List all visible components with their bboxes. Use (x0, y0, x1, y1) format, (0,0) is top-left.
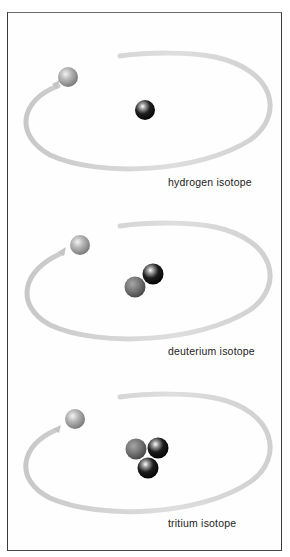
nucleus-particle (138, 458, 159, 479)
panel-hydrogen: hydrogen isotope (0, 0, 290, 190)
electron (70, 235, 90, 255)
panel-tritium: tritium isotope (0, 370, 290, 557)
tritium-atom-illustration (0, 370, 290, 557)
deuterium-atom-illustration (0, 180, 290, 370)
nucleus-particle (126, 439, 147, 460)
nucleus-particle (135, 100, 155, 120)
nucleus-particle (143, 264, 164, 285)
deuterium-label: deuterium isotope (168, 345, 255, 357)
nucleus-particle (148, 438, 169, 459)
orbit-path (26, 394, 270, 512)
panel-deuterium: deuterium isotope (0, 180, 290, 370)
electron (58, 67, 78, 87)
hydrogen-atom-illustration (0, 0, 290, 190)
nucleus-particle (125, 277, 146, 298)
electron (65, 409, 85, 429)
tritium-label: tritium isotope (168, 517, 236, 529)
